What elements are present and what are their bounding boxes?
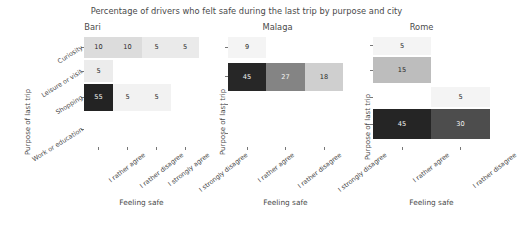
panel-title-bari: Bari [0, 22, 195, 32]
heatmap-cell: 5 [373, 37, 431, 55]
cell-value: 45 [398, 121, 406, 128]
x-tick-label-i-rather-disagree: I rather disagree [296, 151, 343, 190]
plot-area-malaga: 9 45 27 18 I rather agree I rather disag… [228, 37, 343, 147]
x-tick-mark [156, 147, 157, 150]
heatmap-cell: 45 [228, 63, 266, 91]
cell-value: 5 [154, 94, 158, 101]
x-tick-label-i-rather-agree: I rather agree [411, 151, 451, 184]
y-tick-label-shopping: Shopping [54, 94, 84, 117]
x-tick-mark [98, 147, 99, 150]
y-tick-mark [370, 45, 373, 46]
heatmap-cell: 9 [228, 37, 266, 58]
cell-value: 10 [94, 44, 102, 51]
cell-value: 30 [456, 121, 464, 128]
x-tick-mark [127, 147, 128, 150]
cell-value: 18 [320, 74, 328, 81]
cell-value: 5 [96, 68, 100, 75]
heatmap-cell: 55 [84, 84, 113, 111]
y-tick-mark [225, 76, 228, 77]
x-tick-mark [247, 147, 248, 150]
heatmap-cell: 15 [373, 57, 431, 83]
heatmap-cell: 5 [142, 37, 171, 58]
heatmap-cell: 27 [266, 63, 305, 91]
heatmap-cell: 18 [305, 63, 343, 91]
panel-malaga: Malaga Purpose of last trip 9 45 27 18 I… [205, 0, 350, 225]
heatmap-cell: 5 [113, 84, 142, 111]
y-tick-mark [370, 97, 373, 98]
y-tick-mark [370, 70, 373, 71]
cell-value: 5 [183, 44, 187, 51]
cell-value: 5 [154, 44, 158, 51]
y-tick-mark [225, 47, 228, 48]
x-axis-title-malaga: Feeling safe [228, 198, 343, 207]
panel-title-malaga: Malaga [205, 22, 350, 32]
x-tick-mark [402, 147, 403, 150]
heatmap-cell: 10 [84, 37, 113, 58]
y-tick-label-curiosity: Curiosity [56, 44, 84, 66]
y-axis-title-bari: Purpose of last trip [24, 89, 32, 155]
cell-value: 27 [281, 74, 289, 81]
cell-value: 5 [458, 94, 462, 101]
plot-area-bari: 10 10 5 5 5 55 5 5 Curiosity Leisure or … [84, 37, 199, 147]
x-tick-label-i-rather-disagree: I rather disagree [471, 151, 518, 190]
panel-title-rome: Rome [350, 22, 493, 32]
x-tick-label-i-rather-agree: I rather agree [107, 151, 147, 184]
heatmap-cell: 45 [373, 109, 431, 139]
y-tick-label-work-or-education: Work or education [30, 126, 84, 164]
cell-value: 10 [123, 44, 131, 51]
heatmap-cell: 5 [171, 37, 199, 58]
y-axis-title-rome: Purpose of last trip [364, 94, 372, 160]
x-tick-mark [460, 147, 461, 150]
cell-value: 15 [398, 67, 406, 74]
cell-value: 55 [94, 94, 102, 101]
x-tick-label-i-rather-agree: I rather agree [256, 151, 296, 184]
x-axis-title-rome: Feeling safe [373, 198, 490, 207]
y-axis-title-malaga: Purpose of last trip [219, 89, 227, 155]
heatmap-cell: 10 [113, 37, 142, 58]
cell-value: 45 [243, 74, 251, 81]
y-tick-mark [370, 124, 373, 125]
cell-value: 5 [125, 94, 129, 101]
heatmap-cell: 30 [431, 109, 490, 139]
plot-area-rome: 5 15 5 45 30 I rather agree I rather dis… [373, 37, 490, 147]
heatmap-cell: 5 [84, 60, 113, 82]
x-tick-mark [285, 147, 286, 150]
panel-bari: Bari Purpose of last trip 10 10 5 5 5 55… [0, 0, 205, 225]
heatmap-cell: 5 [431, 87, 490, 107]
cell-value: 5 [400, 43, 404, 50]
panel-rome: Rome Purpose of last trip 5 15 5 45 30 I… [350, 0, 493, 225]
x-axis-title-bari: Feeling safe [84, 198, 199, 207]
x-tick-mark [185, 147, 186, 150]
x-tick-mark [324, 147, 325, 150]
y-tick-mark [225, 104, 228, 105]
cell-value: 9 [245, 44, 249, 51]
y-tick-mark [225, 133, 228, 134]
heatmap-cell: 5 [142, 84, 171, 111]
